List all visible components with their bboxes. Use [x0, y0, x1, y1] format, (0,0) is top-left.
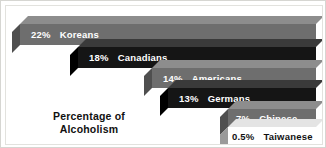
bar-value-label: 22% — [31, 29, 51, 40]
bar-top-face — [152, 60, 323, 68]
bar-top-face — [228, 119, 323, 127]
bar-front-face: 0.5%Taiwanese — [228, 127, 316, 145]
chart-plate: 22%Koreans18%Canadians14%Americans13%Ger… — [5, 5, 323, 145]
bar-side-face — [70, 47, 78, 76]
bar-value-label: 13% — [179, 93, 199, 104]
bar-value-label: 18% — [89, 52, 109, 63]
bar-side-face — [160, 88, 168, 116]
bar-side-face — [12, 24, 20, 53]
bar-top-face — [228, 101, 323, 109]
bar-category-label: Taiwanese — [263, 131, 312, 142]
bar-side-face — [144, 68, 152, 96]
bar-top-face — [78, 39, 323, 47]
bar-value-label: 0.5% — [232, 131, 254, 142]
bar-taiwanese: 0.5%Taiwanese — [228, 127, 316, 145]
chart-frame: 22%Koreans18%Canadians14%Americans13%Ger… — [0, 0, 326, 148]
chart-title-line-2: Alcoholism — [24, 123, 154, 136]
chart-title: Percentage of Alcoholism — [24, 110, 154, 136]
bar-top-face — [20, 16, 323, 24]
bar-top-face — [168, 80, 323, 88]
chart-title-line-1: Percentage of — [24, 110, 154, 123]
